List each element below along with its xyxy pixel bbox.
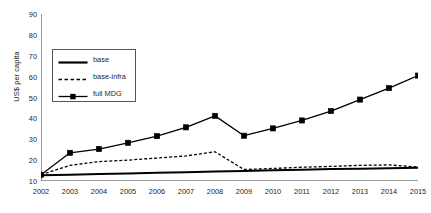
line-chart: US$ per capita 908070605040302010 200220… xyxy=(0,0,431,213)
square-marker-line-swatch-graphic xyxy=(58,91,88,102)
data-point-marker xyxy=(67,150,72,155)
square-marker-line-swatch xyxy=(58,88,88,99)
data-point-marker xyxy=(212,113,217,118)
y-tick-label: 80 xyxy=(3,30,37,39)
solid-line-swatch xyxy=(58,54,88,65)
dashed-line-swatch-graphic xyxy=(58,74,88,85)
legend-label: base xyxy=(93,55,109,64)
legend-square-marker xyxy=(70,94,75,99)
data-point-marker xyxy=(241,133,246,138)
legend-label: full MDG xyxy=(93,89,122,98)
legend-item-base: base xyxy=(53,51,135,68)
data-point-marker xyxy=(183,125,188,130)
data-point-marker xyxy=(125,140,130,145)
legend-label: base-infra xyxy=(93,72,126,81)
solid-line-swatch-graphic xyxy=(58,57,88,68)
legend-item-full-mdg: full MDG xyxy=(53,85,135,102)
data-point-marker xyxy=(357,97,362,102)
y-tick-label: 40 xyxy=(3,114,37,123)
dashed-line-swatch xyxy=(58,71,88,82)
data-point-marker xyxy=(415,73,418,78)
y-tick-label: 20 xyxy=(3,156,37,165)
data-point-marker xyxy=(96,146,101,151)
series-line-base xyxy=(41,168,418,176)
data-point-marker xyxy=(299,118,304,123)
y-tick-label: 90 xyxy=(3,10,37,19)
data-point-marker xyxy=(328,108,333,113)
chart-legend: basebase-infrafull MDG xyxy=(52,49,136,102)
legend-item-base-infra: base-infra xyxy=(53,68,135,85)
x-axis-tick-labels: 2002200320042005200620072008200920102011… xyxy=(41,187,418,201)
y-tick-label: 50 xyxy=(3,93,37,102)
x-tick-label: 2015 xyxy=(398,187,431,196)
y-tick-label: 30 xyxy=(3,135,37,144)
data-point-marker xyxy=(386,86,391,91)
data-point-marker xyxy=(41,172,44,177)
y-axis-tick-labels: 908070605040302010 xyxy=(0,14,37,181)
data-point-marker xyxy=(154,134,159,139)
data-point-marker xyxy=(270,126,275,131)
y-tick-label: 60 xyxy=(3,72,37,81)
y-tick-label: 70 xyxy=(3,51,37,60)
y-tick-label: 10 xyxy=(3,177,37,186)
